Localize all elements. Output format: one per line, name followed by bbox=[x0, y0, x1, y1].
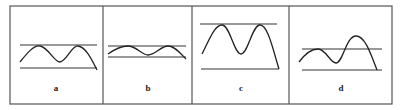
panel-c: c bbox=[200, 24, 279, 93]
panel-label: a bbox=[54, 83, 59, 93]
wave-curve bbox=[299, 36, 377, 70]
panel-a: a bbox=[20, 45, 97, 93]
panel-b: b bbox=[108, 46, 186, 93]
panel-d: d bbox=[299, 36, 382, 93]
panel-label: b bbox=[145, 83, 150, 93]
figure-panels: a b c d bbox=[0, 0, 403, 110]
panel-label: c bbox=[239, 83, 243, 93]
panel-label: d bbox=[338, 83, 343, 93]
wave-curve bbox=[20, 46, 97, 70]
wave-curve bbox=[202, 25, 279, 69]
